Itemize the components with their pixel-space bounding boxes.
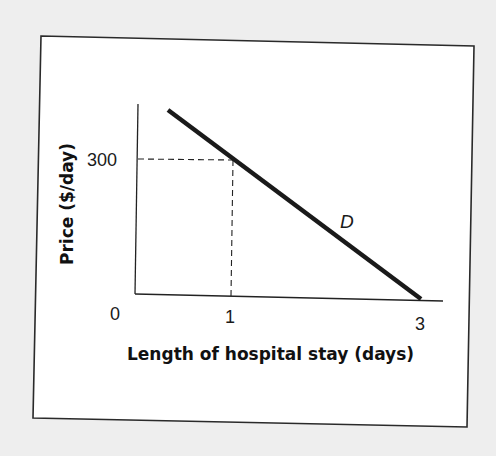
- demand-chart-figure: 0 1 3 300 D Length of hospital stay (day…: [0, 0, 496, 456]
- y-axis-title: Price ($/day): [57, 143, 77, 265]
- y-tick-300: 300: [87, 150, 117, 170]
- origin-label: 0: [110, 304, 120, 324]
- x-axis-title: Length of hospital stay (days): [127, 344, 414, 364]
- chart-svg: 0 1 3 300 D Length of hospital stay (day…: [0, 0, 496, 456]
- chart-frame: [33, 36, 474, 427]
- demand-curve-label: D: [340, 211, 354, 232]
- x-tick-3: 3: [415, 314, 425, 334]
- x-tick-1: 1: [225, 307, 235, 327]
